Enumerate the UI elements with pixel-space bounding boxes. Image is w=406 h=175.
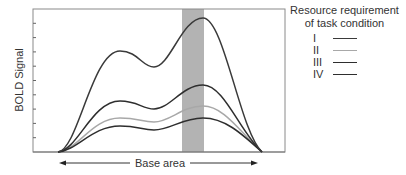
legend-title-line2: of task condition xyxy=(283,17,406,30)
legend-item-i: I xyxy=(313,32,406,44)
arrow-right-icon xyxy=(251,161,258,166)
legend-item-ii: II xyxy=(313,44,406,56)
signal-curves xyxy=(58,18,262,152)
legend-item-iii: III xyxy=(313,56,406,68)
legend-item-iv: IV xyxy=(313,68,406,80)
legend-label: IV xyxy=(313,68,333,80)
legend-title-line1: Resource requirement xyxy=(283,4,406,17)
legend-items: IIIIIIIV xyxy=(313,32,406,80)
y-axis-label: BOLD Signal xyxy=(13,48,25,112)
legend-label: III xyxy=(313,56,333,68)
x-axis-label: Base area xyxy=(135,157,186,169)
legend-swatch xyxy=(333,38,357,39)
legend-swatch xyxy=(333,74,357,75)
plot-frame xyxy=(33,9,285,152)
legend-label: I xyxy=(313,32,333,44)
legend-swatch xyxy=(333,50,357,51)
legend-label: II xyxy=(313,44,333,56)
legend: Resource requirement of task condition I… xyxy=(283,4,406,80)
arrow-left-icon xyxy=(59,161,66,166)
legend-swatch xyxy=(333,62,357,63)
